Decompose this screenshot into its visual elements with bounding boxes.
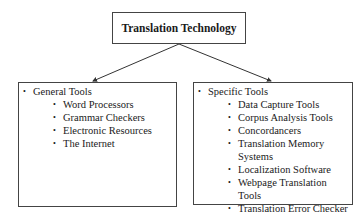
list-item: Concordancers: [208, 124, 352, 137]
root-node: Translation Technology: [112, 12, 246, 44]
arrow-to-general-tools: [93, 44, 179, 81]
root-label: Translation Technology: [121, 22, 236, 34]
general-tools-node: General Tools Word Processors Grammar Ch…: [18, 82, 177, 207]
list-item: Corpus Analysis Tools: [208, 111, 352, 124]
general-tools-title: General Tools: [33, 86, 92, 97]
specific-tools-node: Specific Tools Data Capture Tools Corpus…: [193, 82, 353, 205]
list-item: The Internet: [33, 137, 176, 150]
list-item: Electronic Resources: [33, 124, 176, 137]
branch-title: General Tools Word Processors Grammar Ch…: [19, 85, 176, 150]
branch-title: Specific Tools Data Capture Tools Corpus…: [194, 85, 352, 215]
specific-tools-title: Specific Tools: [208, 86, 268, 97]
list-item: Word Processors: [33, 98, 176, 111]
list-item: Data Capture Tools: [208, 98, 352, 111]
arrow-to-specific-tools: [179, 44, 271, 81]
list-item: Translation Error Checker: [208, 202, 352, 215]
list-item: Grammar Checkers: [33, 111, 176, 124]
list-item: Webpage Translation Tools: [208, 176, 352, 202]
list-item: Localization Software: [208, 163, 352, 176]
list-item: Translation Memory Systems: [208, 137, 352, 163]
